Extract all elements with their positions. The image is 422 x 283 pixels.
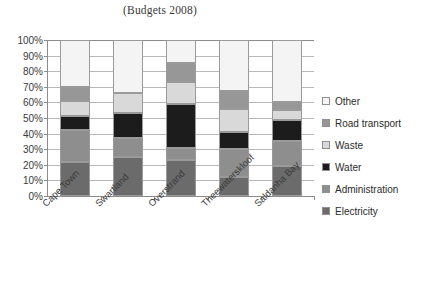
bar-column[interactable] xyxy=(113,40,143,196)
legend-item-label: Water xyxy=(335,162,361,173)
legend-item[interactable]: Waste xyxy=(322,134,422,156)
legend-item[interactable]: Administration xyxy=(322,178,422,200)
bar-segment[interactable] xyxy=(219,109,249,132)
y-axis-tick-label: 70% xyxy=(0,81,43,92)
y-axis-tick-label: 10% xyxy=(0,175,43,186)
legend-swatch-icon xyxy=(322,207,330,215)
y-axis-tick xyxy=(44,56,48,57)
budgets-2008-stacked-bar-chart: (Budgets 2008) 0%10%20%30%40%50%60%70%80… xyxy=(0,0,422,283)
bar-segment[interactable] xyxy=(60,101,90,117)
y-axis-tick xyxy=(44,180,48,181)
chart-title: (Budgets 2008) xyxy=(0,4,320,16)
legend-item[interactable]: Electricity xyxy=(322,200,422,222)
y-axis-tick-label: 80% xyxy=(0,66,43,77)
x-axis-tick xyxy=(314,196,315,200)
legend-swatch-icon xyxy=(322,97,330,105)
y-axis-tick-label: 40% xyxy=(0,128,43,139)
legend-item[interactable]: Other xyxy=(322,90,422,112)
y-axis-tick-label: 50% xyxy=(0,113,43,124)
y-axis-tick-label: 20% xyxy=(0,159,43,170)
legend-item-label: Administration xyxy=(335,184,398,195)
legend-item[interactable]: Water xyxy=(322,156,422,178)
legend-item[interactable]: Road transport xyxy=(322,112,422,134)
y-axis-tick xyxy=(44,40,48,41)
y-axis-tick-label: 100% xyxy=(0,35,43,46)
bar-segment[interactable] xyxy=(113,138,143,157)
bar-segment[interactable] xyxy=(219,91,249,108)
bar-segment[interactable] xyxy=(272,120,302,142)
y-axis-tick-label: 0% xyxy=(0,191,43,202)
y-axis-tick xyxy=(44,134,48,135)
y-axis-labels: 0%10%20%30%40%50%60%70%80%90%100% xyxy=(0,40,43,196)
legend-item-label: Waste xyxy=(335,140,363,151)
bar-segment[interactable] xyxy=(60,116,90,130)
bar-segment[interactable] xyxy=(60,40,90,87)
bar-segment[interactable] xyxy=(113,93,143,113)
chart-legend: OtherRoad transportWasteWaterAdministrat… xyxy=(322,90,422,222)
bar-segment[interactable] xyxy=(166,104,196,148)
bar-segment[interactable] xyxy=(166,40,196,63)
legend-item-label: Electricity xyxy=(335,206,378,217)
bar-segment[interactable] xyxy=(272,40,302,102)
y-axis-tick xyxy=(44,102,48,103)
y-axis-tick xyxy=(44,71,48,72)
legend-item-label: Other xyxy=(335,96,360,107)
bar-segment[interactable] xyxy=(166,148,196,160)
y-axis-tick-label: 30% xyxy=(0,144,43,155)
bar-segment[interactable] xyxy=(60,130,90,161)
x-axis-labels: Cape TownSwartlandOverstrandTheewaterskl… xyxy=(47,197,313,267)
bar-segment[interactable] xyxy=(272,102,302,110)
legend-swatch-icon xyxy=(322,163,330,171)
y-axis-tick xyxy=(44,165,48,166)
bar-segment[interactable] xyxy=(113,113,143,138)
bar-segment[interactable] xyxy=(113,40,143,93)
y-axis-tick xyxy=(44,118,48,119)
y-axis-tick xyxy=(44,87,48,88)
bar-segment[interactable] xyxy=(60,87,90,101)
legend-swatch-icon xyxy=(322,119,330,127)
bar-segment[interactable] xyxy=(272,110,302,119)
legend-item-label: Road transport xyxy=(335,118,401,129)
bar-segment[interactable] xyxy=(166,82,196,104)
bar-segment[interactable] xyxy=(219,132,249,149)
y-axis-tick xyxy=(44,149,48,150)
y-axis-tick-label: 90% xyxy=(0,50,43,61)
bar-segment[interactable] xyxy=(219,40,249,91)
legend-swatch-icon xyxy=(322,185,330,193)
y-axis-tick-label: 60% xyxy=(0,97,43,108)
legend-swatch-icon xyxy=(322,141,330,149)
bar-segment[interactable] xyxy=(166,63,196,82)
